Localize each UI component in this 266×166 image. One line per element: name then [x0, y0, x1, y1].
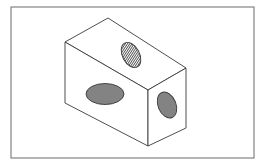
- drawing-canvas: [0, 0, 266, 166]
- isometric-block-drawing: [0, 0, 266, 166]
- hole-front-face: [86, 84, 124, 105]
